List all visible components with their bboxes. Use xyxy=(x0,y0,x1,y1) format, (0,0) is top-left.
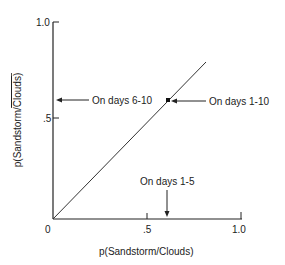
y-tick-label-0.5: .5 xyxy=(43,113,52,124)
x-tick-label-0.5: .5 xyxy=(143,224,152,235)
x-tick-label-0: 0 xyxy=(45,224,51,235)
annotation-days-6-10: On days 6-10 xyxy=(92,95,152,106)
annotation-days-1-10: On days 1-10 xyxy=(209,96,269,107)
annotation-days-1-5: On days 1-5 xyxy=(140,176,195,187)
arrowhead-down-icon xyxy=(165,211,170,217)
svg-text:p(Sandstorm/Clouds): p(Sandstorm/Clouds) xyxy=(12,73,23,168)
x-axis-label: p(Sandstorm/Clouds) xyxy=(99,246,193,257)
arrowhead-left-icon xyxy=(171,99,177,104)
x-tick-label-1.0: 1.0 xyxy=(232,224,246,235)
data-point xyxy=(166,98,170,102)
y-axis-label: p(Sandstorm/Clouds) xyxy=(12,73,24,168)
chart: 1.0 .5 0 .5 1.0 On days 1-10 On days 6-1… xyxy=(0,0,285,265)
diagonal-line xyxy=(53,62,206,219)
arrowhead-left-icon xyxy=(56,98,62,103)
y-tick-label-1.0: 1.0 xyxy=(36,17,50,28)
